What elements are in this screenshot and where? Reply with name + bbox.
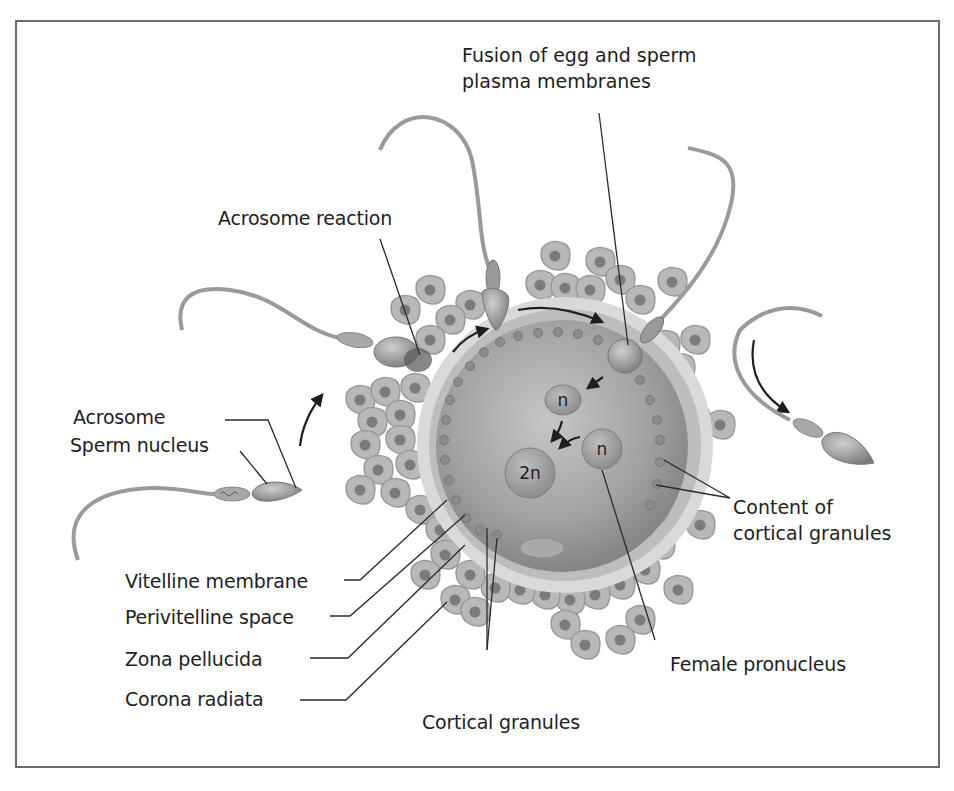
label-corona-radiata: Corona radiata	[125, 687, 263, 711]
svg-text:2n: 2n	[519, 463, 541, 483]
label-acrosome: Acrosome	[73, 405, 165, 429]
sperm-right	[734, 308, 874, 464]
label-fusion: Fusion of egg and sperm plasma membranes	[462, 42, 696, 94]
label-zona-pellucida: Zona pellucida	[125, 647, 262, 671]
label-sperm-nucleus: Sperm nucleus	[70, 433, 209, 457]
label-content-of-cortical-granules: Content of cortical granules	[733, 494, 892, 546]
label-female-pronucleus: Female pronucleus	[670, 652, 846, 676]
male-pronucleus: n	[545, 385, 581, 415]
polar-body	[520, 538, 564, 558]
sperm-left	[74, 482, 302, 560]
female-pronucleus: n	[582, 429, 622, 469]
label-acrosome-reaction: Acrosome reaction	[218, 206, 392, 230]
label-perivitelline-space: Perivitelline space	[125, 605, 294, 629]
label-vitelline-membrane: Vitelline membrane	[125, 569, 308, 593]
zygote-nucleus: 2n	[505, 448, 555, 498]
svg-text:n: n	[597, 439, 608, 459]
svg-text:n: n	[558, 390, 569, 410]
label-cortical-granules: Cortical granules	[422, 710, 580, 734]
